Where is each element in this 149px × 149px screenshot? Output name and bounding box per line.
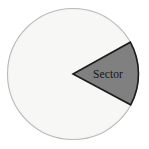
- pie-slice-sector-label: Sector: [93, 68, 123, 80]
- pie-chart-svg: Sector: [0, 0, 149, 149]
- pie-chart-figure: Sector: [0, 0, 149, 149]
